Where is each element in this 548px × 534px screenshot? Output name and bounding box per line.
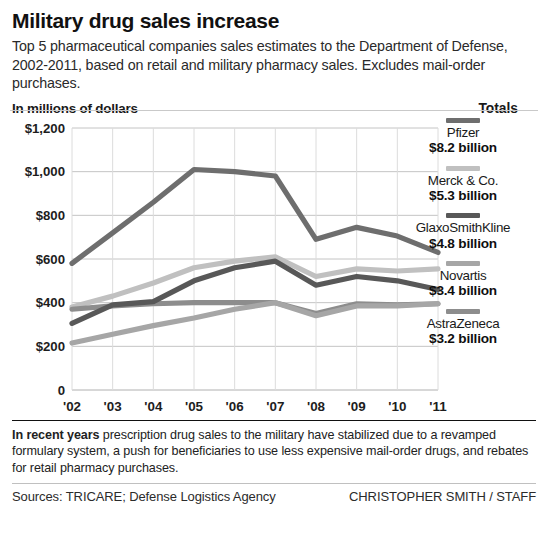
y-axis-tick-label: $600 bbox=[36, 251, 65, 266]
deck-text: Top 5 pharmaceutical companies sales est… bbox=[12, 37, 536, 93]
chart-header-row: In millions of dollars Totals bbox=[12, 101, 536, 116]
legend-item: GlaxoSmithKline$4.8 billion bbox=[388, 213, 538, 252]
credits-row: Sources: TRICARE; Defense Logistics Agen… bbox=[12, 489, 536, 504]
x-axis-tick-label: '05 bbox=[185, 399, 204, 414]
page-title: Military drug sales increase bbox=[12, 10, 538, 32]
legend-company-name: GlaxoSmithKline bbox=[388, 220, 538, 235]
x-axis-tick-label: '11 bbox=[429, 399, 447, 414]
infographic-sheet: Military drug sales increase Top 5 pharm… bbox=[0, 0, 548, 534]
legend-item: Merck & Co.$5.3 billion bbox=[388, 166, 538, 205]
footnote: In recent years prescription drug sales … bbox=[12, 427, 536, 476]
x-axis-tick-label: '07 bbox=[266, 399, 284, 414]
sources-text: Sources: TRICARE; Defense Logistics Agen… bbox=[12, 489, 276, 504]
y-axis-tick-label: $800 bbox=[36, 208, 65, 223]
totals-column-label: Totals bbox=[478, 101, 518, 116]
x-axis-tick-label: '06 bbox=[226, 399, 244, 414]
chart-legend: Pfizer$8.2 billionMerck & Co.$5.3 billio… bbox=[388, 118, 538, 357]
x-axis-tick-label: '03 bbox=[104, 399, 122, 414]
chart-svg: 0$200$400$600$800$1,000$1,200 '02'03'04'… bbox=[10, 118, 450, 418]
legend-item: AstraZeneca$3.2 billion bbox=[388, 309, 538, 348]
legend-swatch-icon bbox=[446, 261, 480, 266]
legend-total-value: $3.2 billion bbox=[388, 331, 538, 347]
y-axis-tick-label: $1,200 bbox=[25, 120, 65, 135]
y-axis-unit-label: In millions of dollars bbox=[12, 101, 138, 116]
x-axis-tick-label: '04 bbox=[144, 399, 163, 414]
legend-item: Novartis$3.4 billion bbox=[388, 261, 538, 300]
divider-bottom bbox=[12, 483, 536, 484]
y-axis-tick-labels: 0$200$400$600$800$1,000$1,200 bbox=[25, 120, 65, 397]
credit-text: CHRISTOPHER SMITH / STAFF bbox=[349, 489, 536, 504]
line-chart-plot: 0$200$400$600$800$1,000$1,200 '02'03'04'… bbox=[10, 118, 450, 418]
legend-company-name: Merck & Co. bbox=[388, 173, 538, 188]
chart-area: 0$200$400$600$800$1,000$1,200 '02'03'04'… bbox=[10, 118, 538, 418]
x-axis-tick-label: '09 bbox=[348, 399, 366, 414]
chart-series-lines bbox=[72, 169, 438, 343]
y-axis-tick-label: 0 bbox=[58, 382, 65, 397]
series-line bbox=[72, 302, 438, 342]
series-line bbox=[72, 169, 438, 263]
legend-swatch-icon bbox=[446, 309, 480, 314]
legend-company-name: Pfizer bbox=[388, 125, 538, 140]
legend-total-value: $3.4 billion bbox=[388, 283, 538, 299]
legend-company-name: Novartis bbox=[388, 268, 538, 283]
x-axis-tick-label: '02 bbox=[63, 399, 81, 414]
legend-total-value: $5.3 billion bbox=[388, 188, 538, 204]
x-axis-tick-label: '10 bbox=[388, 399, 406, 414]
legend-swatch-icon bbox=[446, 166, 480, 171]
y-axis-tick-label: $400 bbox=[36, 295, 65, 310]
legend-total-value: $4.8 billion bbox=[388, 236, 538, 252]
legend-item: Pfizer$8.2 billion bbox=[388, 118, 538, 157]
legend-company-name: AstraZeneca bbox=[388, 316, 538, 331]
divider-middle bbox=[12, 420, 536, 421]
legend-swatch-icon bbox=[446, 118, 480, 123]
y-axis-tick-label: $1,000 bbox=[25, 164, 65, 179]
legend-total-value: $8.2 billion bbox=[388, 140, 538, 156]
y-axis-tick-label: $200 bbox=[36, 339, 65, 354]
footnote-lead: In recent years bbox=[12, 428, 99, 442]
divider-top bbox=[10, 110, 538, 111]
legend-swatch-icon bbox=[446, 213, 480, 218]
x-axis-tick-label: '08 bbox=[307, 399, 326, 414]
x-axis-tick-labels: '02'03'04'05'06'07'08'09'10'11 bbox=[63, 399, 447, 414]
